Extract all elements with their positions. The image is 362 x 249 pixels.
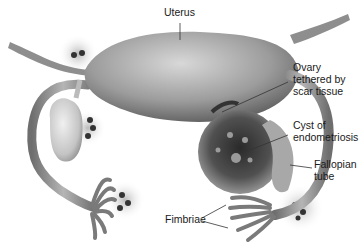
label-uterus: Uterus bbox=[164, 6, 195, 18]
endometriosis-diagram: Uterus Ovary tethered by scar tissue Cys… bbox=[0, 0, 362, 249]
label-cyst-of-endometriosis: Cyst of endometriosis bbox=[293, 119, 358, 143]
uterus bbox=[85, 32, 298, 122]
right-ligament bbox=[290, 14, 350, 44]
label-fallopian-tube: Fallopian tube bbox=[314, 158, 357, 182]
label-ovary-tethered: Ovary tethered by scar tissue bbox=[293, 61, 346, 97]
label-fimbriae: Fimbriae bbox=[165, 213, 206, 225]
right-fimbriae bbox=[230, 197, 274, 240]
left-ovary bbox=[50, 98, 83, 161]
